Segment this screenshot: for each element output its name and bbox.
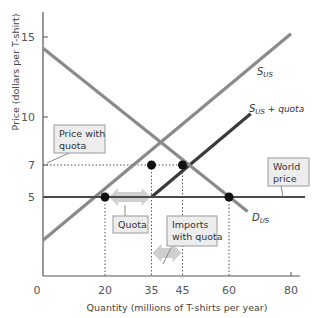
curve-labels: SUSSUS + quotaDUS: [249, 66, 304, 225]
imports-with-quota-note-text: with quota: [172, 231, 223, 242]
label-d-us: DUS: [252, 212, 270, 225]
x-axis-title: Quantity (millions of T-shirts per year): [87, 302, 268, 313]
price-with-quota-note: Price withquota: [47, 125, 105, 163]
x-tick-label: 80: [284, 284, 298, 297]
quota-note-text: Quota: [118, 219, 147, 230]
world-price-note-text: World: [273, 161, 300, 172]
quota-note: Quota: [113, 205, 148, 233]
y-tick-label: 15: [21, 31, 35, 44]
price-with-quota-note-text: Price with: [59, 128, 105, 139]
world-price-note: Worldprice: [268, 158, 309, 197]
annotations: Price withquotaWorldpriceQuotaImportswit…: [47, 125, 309, 264]
world-price-note-text: price: [273, 173, 297, 184]
domestic-supply-at-world-price: [101, 193, 110, 202]
x-tick-label: 45: [176, 284, 190, 297]
world-price-note-leader: [281, 186, 283, 197]
x-tick-label: 0: [34, 284, 41, 297]
equilibrium-with-quota: [178, 161, 187, 170]
label-s-us-quota: SUS + quota: [249, 103, 304, 116]
y-axis-title: Price (dollars per T-shirt): [10, 14, 21, 131]
x-tick-label: 35: [145, 284, 159, 297]
label-s-us: SUS: [257, 66, 273, 79]
y-tick-label: 7: [28, 159, 35, 172]
x-tick-label: 20: [98, 284, 112, 297]
imports-with-quota-note-text: Imports: [172, 219, 209, 230]
quota-chart: 57101502035456080Quantity (millions of T…: [0, 0, 313, 318]
curve-s-us-quota: [152, 114, 251, 197]
price-with-quota-note-leader: [47, 153, 69, 163]
domestic-supply-at-quota-price: [147, 161, 156, 170]
price-with-quota-note-text: quota: [59, 140, 86, 151]
y-tick-label: 10: [21, 111, 35, 124]
imports-with-quota-arrow: [153, 244, 182, 262]
demand-at-world-price: [225, 193, 234, 202]
x-tick-label: 60: [222, 284, 236, 297]
y-tick-label: 5: [28, 191, 35, 204]
